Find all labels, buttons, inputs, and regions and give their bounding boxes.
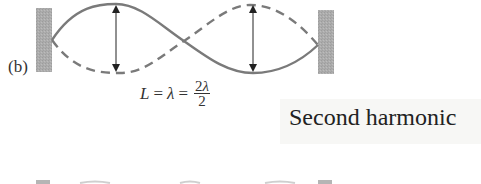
numerator-coefficient: 2 xyxy=(195,78,203,94)
string-solid-waveform xyxy=(52,4,318,73)
standing-wave-figure: (b) L = λ = 2λ 2 Second harmonic xyxy=(0,0,481,184)
caption: Second harmonic xyxy=(289,104,456,131)
fraction-denominator: 2 xyxy=(198,94,206,108)
left-wall-icon xyxy=(36,8,52,72)
standing-wave-diagram xyxy=(0,0,481,184)
right-wall-icon xyxy=(318,10,334,74)
numerator-variable: λ xyxy=(203,78,210,94)
wavelength-equation: L = λ = 2λ 2 xyxy=(140,79,210,108)
equation-lambda: λ xyxy=(167,84,174,104)
cropped-next-wall-right xyxy=(318,180,332,184)
equation-equals-2: = xyxy=(178,84,188,104)
equation-lhs: L xyxy=(140,84,149,104)
cropped-next-waveform xyxy=(80,182,295,184)
cropped-next-wall-left xyxy=(36,180,50,184)
equation-fraction: 2λ 2 xyxy=(194,79,210,108)
fraction-numerator: 2λ xyxy=(194,79,210,94)
part-label: (b) xyxy=(8,57,28,77)
string-dashed-waveform xyxy=(52,5,318,73)
equation-equals-1: = xyxy=(153,84,163,104)
